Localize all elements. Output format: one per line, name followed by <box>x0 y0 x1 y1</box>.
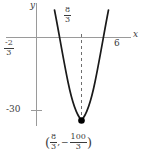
parabola-figure: 8 3 -2 3 6 x y -30 ( 8 3 , − 100 <box>0 0 148 156</box>
fraction-negative-two-thirds: -2 3 <box>4 39 14 57</box>
fraction-denominator: 3 <box>64 16 71 25</box>
fraction-denominator: 3 <box>5 49 12 58</box>
fraction-denominator: 3 <box>50 143 57 152</box>
fraction-vertex-x: 8 3 <box>50 133 57 151</box>
x-axis-label: x <box>133 30 138 39</box>
fraction-numerator: -2 <box>4 39 14 48</box>
negative-sign: − <box>61 138 70 147</box>
fraction-numerator: 8 <box>50 133 57 142</box>
fraction-vertex-y: 100 3 <box>70 133 87 151</box>
vertex-x-label: 8 3 <box>64 6 71 24</box>
x-intercept-left-label: -2 3 <box>4 39 14 57</box>
fraction-numerator: 8 <box>64 6 71 15</box>
close-paren: ) <box>87 136 92 149</box>
y-axis-tick-label-minus30: -30 <box>6 105 21 114</box>
fraction-numerator: 100 <box>70 133 87 142</box>
y-axis-label: y <box>30 1 35 10</box>
vertex-coordinate-row: ( 8 3 , − 100 3 ) <box>45 133 92 151</box>
vertex-coordinate-label: ( 8 3 , − 100 3 ) <box>45 133 92 151</box>
x-intercept-right-label: 6 <box>114 39 120 48</box>
vertex-point-marker <box>78 117 85 124</box>
fraction-eight-thirds: 8 3 <box>64 6 71 24</box>
fraction-denominator: 3 <box>75 143 82 152</box>
